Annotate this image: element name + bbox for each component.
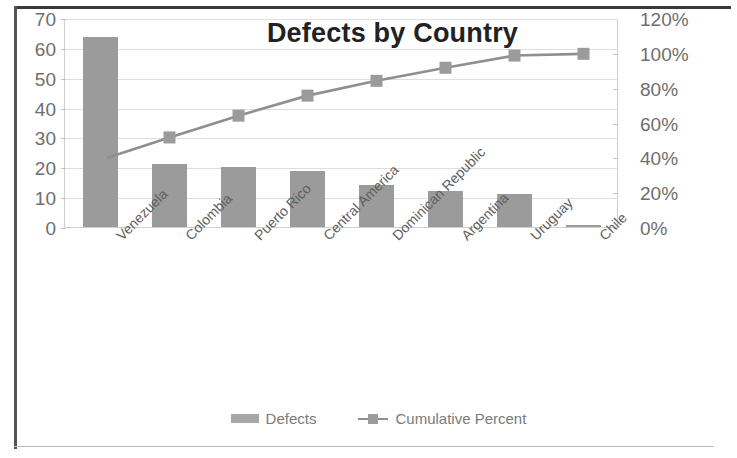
- line-marker: [578, 48, 590, 60]
- category-label: Dominican Republic: [389, 232, 400, 243]
- legend-label-defects: Defects: [266, 410, 317, 427]
- primary-y-tick-label: 70: [35, 10, 56, 29]
- primary-y-tick-mark: [61, 228, 66, 229]
- secondary-y-axis-labels: 0%20%40%60%80%100%120%: [622, 19, 692, 228]
- page-frame-bottom-border: [14, 446, 714, 447]
- legend-label-cumulative-percent: Cumulative Percent: [395, 410, 526, 427]
- cumulative-line-path: [101, 54, 584, 160]
- page-frame-top-border: [14, 6, 731, 9]
- secondary-y-tick-label: 60%: [640, 115, 678, 134]
- primary-y-tick-label: 30: [35, 129, 56, 148]
- category-label: Uruguay: [527, 232, 538, 243]
- category-label: Argentina: [458, 232, 469, 243]
- secondary-y-tick-label: 100%: [640, 45, 689, 64]
- primary-y-tick-label: 0: [45, 219, 56, 238]
- secondary-y-tick-label: 20%: [640, 184, 678, 203]
- secondary-y-tick-label: 80%: [640, 80, 678, 99]
- secondary-y-tick-label: 40%: [640, 149, 678, 168]
- category-label: Puerto Rico: [251, 232, 262, 243]
- primary-y-tick-label: 20: [35, 159, 56, 178]
- category-axis-labels: VenezuelaColombiaPuerto RicoCentral Amer…: [66, 232, 618, 342]
- line-marker: [440, 62, 452, 74]
- category-label: Chile: [596, 232, 607, 243]
- primary-y-tick-label: 50: [35, 70, 56, 89]
- line-marker: [371, 75, 383, 87]
- bar-swatch-icon: [231, 414, 259, 423]
- primary-y-axis-labels: 010203040506070: [8, 19, 60, 228]
- line-marker: [95, 154, 107, 166]
- line-marker: [509, 50, 521, 62]
- chart-legend: Defects Cumulative Percent: [0, 410, 737, 427]
- legend-item-defects: Defects: [231, 410, 317, 427]
- legend-item-cumulative-percent: Cumulative Percent: [358, 410, 526, 427]
- secondary-y-tick-label: 120%: [640, 10, 689, 29]
- primary-y-tick-label: 40: [35, 100, 56, 119]
- line-marker: [164, 131, 176, 143]
- category-label: Colombia: [182, 232, 193, 243]
- chart-page: Defects by Country 010203040506070 0%20%…: [0, 0, 737, 458]
- line-marker-swatch-icon: [358, 413, 388, 424]
- line-marker: [302, 90, 314, 102]
- category-label: Venezuela: [113, 232, 124, 243]
- primary-y-tick-label: 60: [35, 40, 56, 59]
- primary-y-tick-label: 10: [35, 189, 56, 208]
- secondary-y-tick-label: 0%: [640, 219, 667, 238]
- category-label: Central America: [320, 232, 331, 243]
- line-marker: [233, 110, 245, 122]
